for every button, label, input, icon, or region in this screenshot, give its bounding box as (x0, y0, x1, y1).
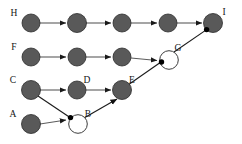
merge-dot-I (204, 27, 209, 32)
node-h2[interactable] (68, 14, 87, 33)
node-label-D: D (84, 75, 91, 85)
graph-svg: H F C A I G D E B (0, 0, 242, 144)
node-label-G: G (175, 43, 182, 53)
row-label-c: C (10, 75, 16, 85)
nodes-row-c (22, 81, 132, 100)
node-label-B: B (85, 109, 91, 119)
row-label-h: H (11, 8, 18, 18)
row-label-a: A (10, 109, 17, 119)
node-f3[interactable] (113, 48, 131, 66)
edge-f3-G (131, 58, 157, 61)
node-label-I: I (222, 7, 225, 17)
edge-A-B (40, 120, 66, 124)
node-F[interactable] (22, 48, 40, 66)
node-h4[interactable] (159, 14, 177, 32)
edges-row-a (40, 120, 66, 124)
node-h3[interactable] (113, 14, 131, 32)
node-f2[interactable] (68, 48, 86, 66)
merge-dots (68, 27, 210, 120)
diagram-canvas: H F C A I G D E B (0, 0, 242, 144)
nodes-row-a (22, 115, 88, 134)
node-A[interactable] (22, 115, 41, 134)
edges-row-f (40, 57, 157, 61)
node-label-E: E (129, 75, 135, 85)
node-C[interactable] (22, 81, 41, 100)
node-H[interactable] (22, 14, 40, 32)
row-label-f: F (11, 42, 16, 52)
edge-C-B (38, 96, 70, 118)
row-labels: H F C A (10, 8, 18, 119)
merge-dot-B (68, 115, 73, 120)
merge-dot-G (159, 59, 164, 64)
